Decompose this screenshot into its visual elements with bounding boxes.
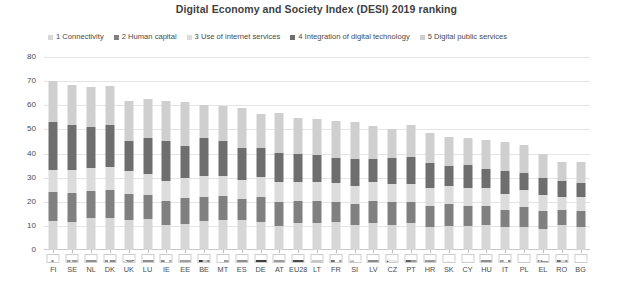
- legend-item[interactable]: 2 Human capital: [114, 32, 177, 42]
- country-code-label: SI: [351, 266, 358, 274]
- bar-segment: [407, 157, 416, 184]
- bar-segment: [237, 180, 246, 199]
- x-axis-tick: SK: [439, 250, 458, 288]
- bar-segment: [200, 105, 209, 139]
- bar-segment: [312, 223, 321, 250]
- legend-item-label: 1 Connectivity: [56, 32, 104, 42]
- legend-item[interactable]: 3 Use of internet services: [187, 32, 281, 42]
- stacked-bar[interactable]: [444, 137, 453, 250]
- stacked-bar[interactable]: [87, 87, 96, 250]
- stacked-bar[interactable]: [576, 162, 585, 250]
- bar-segment: [369, 182, 378, 202]
- y-axis-tick-label: 40: [2, 150, 36, 158]
- country-flag-icon: [423, 254, 436, 263]
- stacked-bar[interactable]: [369, 126, 378, 250]
- country-code-label: NL: [86, 266, 95, 274]
- bar-segment: [501, 142, 510, 171]
- stacked-bar[interactable]: [407, 125, 416, 250]
- stacked-bar[interactable]: [143, 99, 152, 250]
- stacked-bar[interactable]: [162, 101, 171, 250]
- bar-segment: [482, 140, 491, 168]
- country-flag-icon: [499, 254, 512, 263]
- stacked-bar[interactable]: [482, 140, 491, 250]
- tick-mark: [72, 250, 73, 253]
- stacked-bar[interactable]: [105, 86, 114, 250]
- x-axis-tick: MT: [213, 250, 232, 288]
- x-axis-tick: DE: [251, 250, 270, 288]
- bar-segment: [388, 225, 397, 250]
- bar-segment: [557, 210, 566, 225]
- stacked-bar[interactable]: [557, 162, 566, 250]
- country-flag-icon: [122, 254, 135, 263]
- stacked-bar[interactable]: [425, 133, 434, 250]
- y-axis-tick-label: 80: [2, 53, 36, 61]
- stacked-bar[interactable]: [237, 108, 246, 250]
- legend-item[interactable]: 5 Digital public services: [420, 32, 507, 42]
- bar-segment: [143, 138, 152, 174]
- bar-segment: [350, 159, 359, 186]
- stacked-bar[interactable]: [312, 119, 321, 250]
- country-flag-icon: [442, 254, 455, 263]
- legend-item[interactable]: 4 Integration of digital technology: [290, 32, 409, 42]
- stacked-bar[interactable]: [218, 106, 227, 250]
- bar-segment: [557, 197, 566, 210]
- stacked-bar[interactable]: [463, 138, 472, 250]
- tick-mark: [581, 250, 582, 253]
- bar-segment: [538, 211, 547, 229]
- bar-segment: [143, 195, 152, 219]
- bar-segment: [331, 158, 340, 183]
- bar-segment: [200, 176, 209, 197]
- bar-segment: [294, 223, 303, 250]
- country-flag-icon: [367, 254, 380, 263]
- stacked-bar[interactable]: [275, 113, 284, 250]
- bar-segment: [68, 85, 77, 126]
- bar-segment: [312, 182, 321, 201]
- bar-segment: [350, 122, 359, 159]
- country-code-label: BG: [575, 266, 586, 274]
- country-flag-icon: [348, 254, 361, 263]
- country-flag-icon: [480, 254, 493, 263]
- bar-segment: [294, 182, 303, 201]
- stacked-bar[interactable]: [294, 118, 303, 250]
- bar-segment: [218, 106, 227, 142]
- tick-mark: [279, 250, 280, 253]
- tick-mark: [486, 250, 487, 253]
- bar-segment: [68, 222, 77, 250]
- country-code-label: RO: [556, 266, 567, 274]
- stacked-bar[interactable]: [49, 81, 58, 250]
- bar-segment: [425, 206, 434, 227]
- stacked-bar[interactable]: [388, 129, 397, 250]
- country-code-label: UK: [124, 266, 134, 274]
- bar-segment: [557, 181, 566, 197]
- tick-mark: [430, 250, 431, 253]
- stacked-bar[interactable]: [181, 102, 190, 250]
- country-code-label: HR: [425, 266, 436, 274]
- stacked-bar[interactable]: [331, 121, 340, 250]
- bar-segment: [331, 202, 340, 223]
- country-code-label: SK: [444, 266, 454, 274]
- country-flag-icon: [235, 254, 248, 263]
- legend-item[interactable]: 1 Connectivity: [48, 32, 104, 42]
- stacked-bar[interactable]: [68, 85, 77, 250]
- tick-mark: [110, 250, 111, 253]
- bar-slot: [82, 57, 101, 250]
- bar-segment: [482, 188, 491, 206]
- bar-segment: [520, 190, 529, 207]
- stacked-bar[interactable]: [256, 114, 265, 250]
- country-code-label: DE: [255, 266, 265, 274]
- country-flag-icon: [405, 254, 418, 263]
- country-flag-icon: [329, 254, 342, 263]
- bar-segment: [68, 193, 77, 221]
- stacked-bar[interactable]: [200, 105, 209, 250]
- y-axis-tick-label: 70: [2, 77, 36, 85]
- tick-mark: [91, 250, 92, 253]
- stacked-bar[interactable]: [538, 154, 547, 250]
- stacked-bar[interactable]: [520, 145, 529, 250]
- bar-slot: [176, 57, 195, 250]
- bar-segment: [576, 183, 585, 197]
- stacked-bar[interactable]: [124, 101, 133, 250]
- bar-segment: [143, 219, 152, 250]
- x-axis-tick: SE: [63, 250, 82, 288]
- stacked-bar[interactable]: [501, 142, 510, 250]
- stacked-bar[interactable]: [350, 122, 359, 250]
